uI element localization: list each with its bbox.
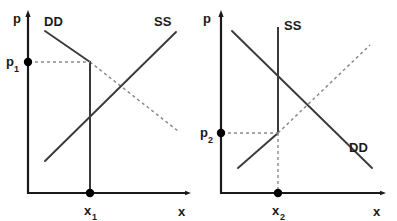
right-quantity-tick-label: x 2 bbox=[272, 203, 285, 221]
panel-right: p x SS DD p 2 x 2 bbox=[197, 0, 397, 221]
left-x-axis-arrow-icon bbox=[185, 191, 191, 196]
right-price-tick-label: p 2 bbox=[200, 125, 213, 145]
left-price-point-marker bbox=[24, 58, 32, 66]
left-price-tick-label-sub: 1 bbox=[14, 64, 19, 74]
left-demand-curve-label: DD bbox=[44, 14, 63, 29]
left-supply-curve bbox=[45, 32, 176, 161]
panel-left: p x DD SS p 1 x 1 bbox=[0, 0, 197, 221]
left-supply-curve-label: SS bbox=[154, 14, 172, 29]
right-demand-curve-label: DD bbox=[349, 140, 368, 155]
left-axes bbox=[25, 10, 191, 195]
right-price-point-marker bbox=[217, 129, 225, 137]
left-quantity-tick-label-base: x bbox=[84, 203, 92, 218]
right-y-axis-arrow-icon bbox=[218, 10, 223, 17]
left-y-axis-arrow-icon bbox=[25, 10, 30, 17]
left-price-tick-label-base: p bbox=[6, 54, 14, 69]
left-quantity-point-marker bbox=[86, 189, 94, 197]
right-axes bbox=[218, 10, 386, 195]
right-supply-curve-lower bbox=[238, 133, 278, 168]
left-y-axis-label: p bbox=[13, 11, 21, 26]
right-y-axis-label: p bbox=[203, 11, 211, 26]
right-x-axis-label: x bbox=[373, 204, 381, 219]
left-price-tick-label: p 1 bbox=[6, 54, 19, 74]
right-quantity-tick-label-base: x bbox=[272, 203, 280, 218]
left-x-axis-label: x bbox=[178, 204, 186, 219]
right-price-tick-label-sub: 2 bbox=[208, 135, 213, 145]
right-price-tick-label-base: p bbox=[200, 125, 208, 140]
left-demand-curve bbox=[45, 31, 90, 62]
right-supply-curve-label: SS bbox=[284, 18, 302, 33]
right-quantity-point-marker bbox=[274, 189, 282, 197]
right-x-axis-arrow-icon bbox=[380, 191, 386, 196]
right-quantity-tick-label-sub: 2 bbox=[280, 212, 285, 221]
left-quantity-tick-label-sub: 1 bbox=[92, 212, 97, 221]
left-quantity-tick-label: x 1 bbox=[84, 203, 97, 221]
supply-demand-figure: p x DD SS p 1 x 1 bbox=[0, 0, 397, 221]
